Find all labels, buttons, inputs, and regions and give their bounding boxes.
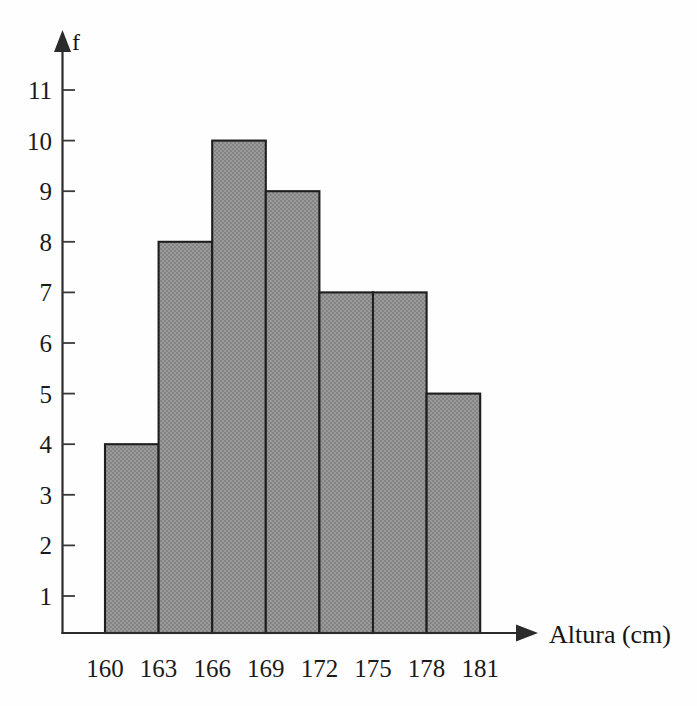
y-tick-label: 7 xyxy=(40,279,53,306)
y-tick-label: 10 xyxy=(27,128,52,155)
y-axis-arrow-icon xyxy=(54,30,71,52)
histogram-bar xyxy=(319,292,373,633)
y-tick-label: 8 xyxy=(40,229,53,256)
y-ticks-group: 1234567891011 xyxy=(27,77,75,610)
histogram-bar xyxy=(159,242,213,633)
histogram-chart-canvas: 1234567891011 160163166169172175178181 f… xyxy=(0,0,697,706)
x-tick-label: 172 xyxy=(301,655,339,682)
x-ticks-group: 160163166169172175178181 xyxy=(86,655,499,682)
y-tick-label: 5 xyxy=(40,381,53,408)
y-tick-label: 2 xyxy=(40,532,53,559)
x-tick-label: 166 xyxy=(193,655,231,682)
x-tick-label: 163 xyxy=(140,655,178,682)
histogram-bar xyxy=(373,292,427,633)
x-axis-title: Altura (cm) xyxy=(549,620,671,649)
histogram-bar xyxy=(212,141,266,633)
y-tick-label: 6 xyxy=(40,330,53,357)
y-tick-label: 3 xyxy=(40,482,53,509)
histogram-bar xyxy=(266,191,320,633)
x-axis-arrow-icon xyxy=(516,625,538,642)
y-axis-title: f xyxy=(72,29,80,55)
x-tick-label: 175 xyxy=(354,655,392,682)
bars-group xyxy=(105,141,480,633)
histogram-bar xyxy=(105,444,159,633)
x-tick-label: 178 xyxy=(408,655,446,682)
y-tick-label: 9 xyxy=(40,178,53,205)
y-tick-label: 11 xyxy=(28,77,52,104)
y-tick-label: 1 xyxy=(40,583,53,610)
x-tick-label: 181 xyxy=(461,655,499,682)
x-tick-label: 160 xyxy=(86,655,124,682)
x-tick-label: 169 xyxy=(247,655,285,682)
histogram-figure: 1234567891011 160163166169172175178181 f… xyxy=(0,0,697,706)
y-tick-label: 4 xyxy=(40,431,53,458)
histogram-bar xyxy=(427,394,481,633)
